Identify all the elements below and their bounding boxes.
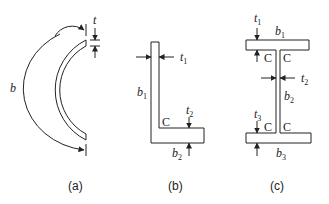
figure-canvas: b t (a) t1 b1 C t2 b2 (b) t1 b1 <box>0 0 329 204</box>
i-section <box>246 40 311 143</box>
caption-c: (c) <box>270 179 284 193</box>
label-t2: t2 <box>301 71 308 87</box>
label-b2: b2 <box>284 89 294 105</box>
caption-a: (a) <box>68 179 83 193</box>
label-corner-c: C <box>283 120 291 134</box>
panel-c: t1 b1 C C C C t2 b2 t3 b3 (c) <box>246 11 311 193</box>
label-b: b <box>10 81 16 95</box>
label-corner-c: C <box>264 120 272 134</box>
label-t3: t3 <box>254 107 261 123</box>
panel-a: b t (a) <box>10 13 100 193</box>
label-t1: t1 <box>254 11 261 27</box>
label-corner-c: C <box>283 51 291 65</box>
label-t: t <box>93 13 97 27</box>
label-t2: t2 <box>186 103 193 119</box>
label-b1: b1 <box>275 24 285 40</box>
label-corner-c: C <box>264 51 272 65</box>
angle-section <box>151 42 204 143</box>
label-b1: b1 <box>137 85 147 101</box>
label-corner-c: C <box>162 115 170 129</box>
label-t1: t1 <box>180 50 187 66</box>
caption-b: (b) <box>168 179 183 193</box>
panel-b: t1 b1 C t2 b2 (b) <box>136 42 204 193</box>
arc-section <box>55 40 86 140</box>
label-b3: b3 <box>276 146 286 162</box>
label-b2: b2 <box>172 146 182 162</box>
